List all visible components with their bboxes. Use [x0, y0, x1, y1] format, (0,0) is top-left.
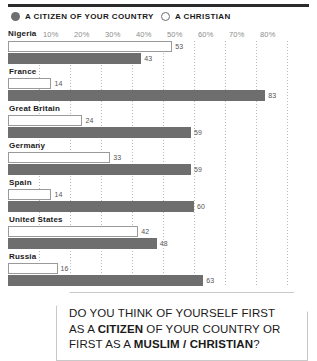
question-callout: DO YOU THINK OF YOURSELF FIRST AS A CITI… [56, 292, 308, 361]
question-line-3-prefix: FIRST AS A [69, 338, 134, 350]
bar-white [8, 263, 58, 274]
bar-gray [8, 201, 194, 212]
bar-row-white: 33 [8, 152, 309, 163]
bar-row-gray: 60 [8, 201, 309, 212]
group-label: United States [9, 215, 63, 224]
bar-value-gray: 63 [206, 277, 214, 284]
bar-value-white: 42 [141, 228, 149, 235]
x-tick-label: 60% [198, 30, 214, 39]
question-line-1: DO YOU THINK OF YOURSELF FIRST [69, 306, 283, 322]
bar-group: Great Britain 24 59 [8, 104, 309, 140]
bar-value-white: 24 [85, 117, 93, 124]
bar-row-white: 14 [8, 189, 309, 200]
bar-value-white: 14 [54, 191, 62, 198]
bar-gray [8, 127, 191, 138]
bar-white [8, 152, 110, 163]
x-tick-label: 20% [74, 30, 90, 39]
question-line-3-emphasis: MUSLIM / CHRISTIAN [134, 338, 253, 350]
x-tick-label: 30% [105, 30, 121, 39]
group-label: Spain [9, 178, 32, 187]
bar-row-gray: 43 [8, 53, 309, 64]
bar-value-white: 16 [61, 265, 69, 272]
bar-value-white: 14 [54, 80, 62, 87]
bar-gray [8, 90, 265, 101]
plot-area: 53 43 France 14 83 Great Britain [8, 41, 309, 285]
bar-chart: Nigeria 10% 20% 30% 40% 50% 60% 70% 80% … [8, 29, 309, 285]
bar-row-white: 14 [8, 78, 309, 89]
bar-row-gray: 83 [8, 90, 309, 101]
question-line-2: AS A CITIZEN OF YOUR COUNTRY OR [69, 322, 283, 338]
bar-group: France 14 83 [8, 67, 309, 103]
question-line-2-prefix: AS A [69, 323, 98, 335]
bar-value-gray: 59 [194, 129, 202, 136]
question-line-2-emphasis: CITIZEN [98, 323, 143, 335]
x-axis-tick-row: Nigeria 10% 20% 30% 40% 50% 60% 70% 80% [8, 29, 309, 41]
bar-row-gray: 59 [8, 164, 309, 175]
group-label: France [9, 67, 36, 76]
bar-group: 53 43 [8, 41, 309, 65]
chart-legend: A CITIZEN OF YOUR COUNTRY A CHRISTIAN [8, 11, 309, 27]
bar-gray [8, 238, 157, 249]
bar-value-gray: 59 [194, 166, 202, 173]
legend-item-citizen: A CITIZEN OF YOUR COUNTRY [11, 12, 154, 21]
bar-row-white: 24 [8, 115, 309, 126]
x-tick-label: 50% [167, 30, 183, 39]
filled-circle-icon [11, 12, 20, 21]
bar-gray [8, 53, 141, 64]
bar-value-gray: 83 [268, 92, 276, 99]
x-tick-label: 40% [136, 30, 152, 39]
bar-group: Germany 33 59 [8, 141, 309, 177]
x-tick-label: 80% [260, 30, 276, 39]
bar-white [8, 115, 82, 126]
bar-row-gray: 63 [8, 275, 309, 286]
x-tick-label: 10% [43, 30, 59, 39]
bar-row-gray: 48 [8, 238, 309, 249]
question-line-3-suffix: ? [253, 338, 260, 350]
bar-white [8, 226, 138, 237]
bar-value-gray: 60 [197, 203, 205, 210]
bar-white [8, 41, 172, 52]
bar-value-white: 53 [175, 43, 183, 50]
first-group-label: Nigeria [8, 29, 37, 38]
question-text: DO YOU THINK OF YOURSELF FIRST AS A CITI… [69, 306, 283, 353]
bar-gray [8, 275, 203, 286]
group-label: Great Britain [9, 104, 60, 113]
legend-item-label: A CITIZEN OF YOUR COUNTRY [25, 12, 154, 21]
bar-group: Spain 14 60 [8, 178, 309, 214]
bar-group: United States 42 48 [8, 215, 309, 251]
legend-item-label: A CHRISTIAN [175, 12, 231, 21]
bar-row-white: 53 [8, 41, 309, 52]
hollow-circle-icon [161, 12, 170, 21]
bar-group: Russia 16 63 [8, 252, 309, 288]
group-label: Germany [9, 141, 45, 150]
question-line-2-suffix: OF YOUR COUNTRY OR [143, 323, 280, 335]
group-label: Russia [9, 252, 36, 261]
header-divider [8, 4, 309, 7]
bar-gray [8, 164, 191, 175]
legend-item-christian: A CHRISTIAN [161, 12, 231, 21]
bar-row-white: 42 [8, 226, 309, 237]
question-line-1-text: DO YOU THINK OF YOURSELF FIRST [69, 307, 275, 319]
x-tick-label: 70% [229, 30, 245, 39]
bar-value-gray: 48 [160, 240, 168, 247]
bar-row-gray: 59 [8, 127, 309, 138]
bar-white [8, 189, 51, 200]
bar-value-white: 33 [113, 154, 121, 161]
question-line-3: FIRST AS A MUSLIM / CHRISTIAN? [69, 337, 283, 353]
bar-white [8, 78, 51, 89]
bar-value-gray: 43 [144, 55, 152, 62]
bar-row-white: 16 [8, 263, 309, 274]
